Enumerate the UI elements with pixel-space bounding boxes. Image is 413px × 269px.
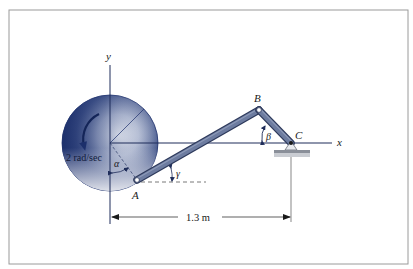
- mechanism-diagram: y x α γ β: [0, 0, 413, 269]
- diagram-canvas: y x α γ β: [0, 0, 413, 269]
- point-a-label: A: [131, 189, 139, 201]
- x-axis-label: x: [336, 136, 342, 148]
- pin-b-icon: [257, 108, 262, 113]
- beta-label: β: [265, 131, 271, 142]
- point-b-label: B: [254, 92, 261, 104]
- point-c-label: C: [295, 129, 303, 141]
- pin-a-icon: [135, 178, 140, 183]
- angular-velocity-label: 2 rad/sec: [66, 152, 102, 163]
- alpha-label: α: [114, 158, 120, 169]
- dimension-label: 1.3 m: [186, 212, 210, 223]
- y-axis-label: y: [105, 50, 111, 62]
